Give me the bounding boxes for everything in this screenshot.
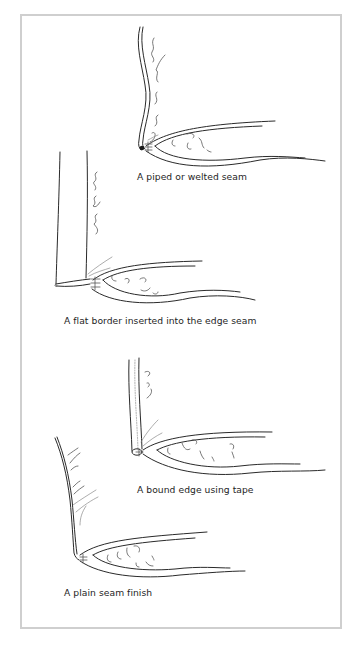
seam-finishes-illustration (0, 0, 359, 658)
caption-plain-seam: A plain seam finish (64, 587, 152, 598)
piped-seam-drawing (138, 27, 325, 166)
bound-edge-drawing (129, 358, 325, 474)
caption-flat-border: A flat border inserted into the edge sea… (64, 315, 256, 326)
caption-piped-seam: A piped or welted seam (137, 171, 247, 182)
caption-bound-edge: A bound edge using tape (137, 484, 254, 495)
